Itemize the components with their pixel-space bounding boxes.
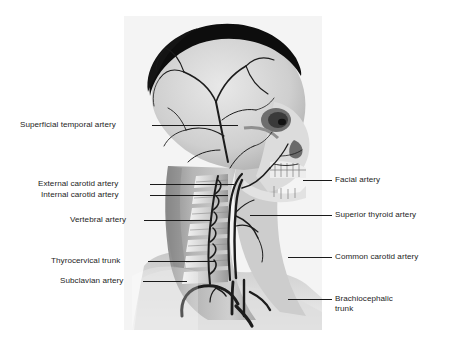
clipped-caption-row: .. .. .. .. .. .. [0,0,457,6]
label-internal-carotid-artery: Internal carotid artery [41,190,119,200]
leader-superior-thyroid-artery [250,215,332,216]
leader-common-carotid-artery [288,257,332,258]
illustration-panel [124,16,322,330]
label-brachiocephalic-trunk: Brachiocephalic trunk [335,294,409,314]
label-vertebral-artery: Vertebral artery [70,215,126,225]
leader-superficial-temporal-artery [152,125,238,126]
leader-thyrocervical-trunk [148,261,215,262]
clipped-caption-text: .. .. .. .. .. .. [68,0,106,1]
label-superior-thyroid-artery: Superior thyroid artery [335,210,416,220]
leader-internal-carotid-artery [150,195,228,196]
leader-vertebral-artery [144,220,212,221]
label-subclavian-artery: Subclavian artery [60,276,123,286]
leader-brachiocephalic-trunk [288,299,332,300]
anatomy-figure: .. .. .. .. .. .. [0,0,457,346]
label-thyrocervical-trunk: Thyrocervical trunk [51,256,120,266]
leader-facial-artery [303,180,332,181]
leader-external-carotid-artery [150,184,234,185]
label-superficial-temporal-artery: Superficial temporal artery [20,120,116,130]
label-external-carotid-artery: External carotid artery [38,179,118,189]
label-common-carotid-artery: Common carotid artery [335,252,418,262]
leader-subclavian-artery [143,281,187,282]
head-neck-anatomy-drawing [124,16,322,330]
label-facial-artery: Facial artery [335,175,380,185]
